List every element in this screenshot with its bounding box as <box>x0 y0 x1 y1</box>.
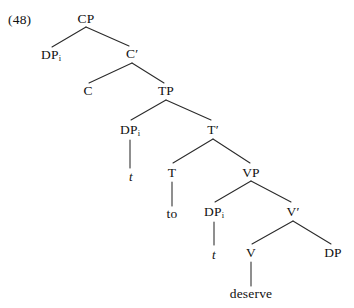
syntax-tree-figure: (48) CP DPi C′ C TP DPi T′ t T VP to DPi… <box>0 0 354 308</box>
node-dp-object: DP <box>324 246 342 260</box>
example-number: (48) <box>8 13 31 27</box>
node-dp-spec-cp-index: i <box>59 53 61 63</box>
branch-tp-to-tbar <box>166 100 211 120</box>
node-c-bar-label: C <box>126 46 135 61</box>
branch-tbar-to-t <box>173 139 213 163</box>
node-t-head: T <box>168 166 176 180</box>
node-dp-spec-vp-index: i <box>222 210 224 220</box>
branch-cbar-to-c <box>89 63 132 83</box>
node-c-head: C <box>83 84 92 98</box>
branch-cp-to-cbar <box>86 27 129 46</box>
branch-cbar-to-tp <box>132 63 164 83</box>
node-tp: TP <box>158 84 174 98</box>
node-trace-spec-tp: t <box>129 170 133 183</box>
branch-vp-to-dp <box>215 181 251 202</box>
node-t-bar: T′ <box>207 123 218 137</box>
branch-cp-to-dp <box>52 27 86 47</box>
node-dp-spec-vp: DPi <box>204 205 224 220</box>
branch-tp-to-dp <box>131 100 166 120</box>
terminal-to: to <box>167 207 178 221</box>
node-dp-spec-tp: DPi <box>120 123 140 138</box>
node-dp-spec-vp-label: DP <box>204 204 222 219</box>
node-dp-spec-cp-label: DP <box>41 47 59 62</box>
branch-tbar-to-vp <box>213 139 250 163</box>
node-v-head: V <box>246 246 256 260</box>
node-v-bar: V′ <box>287 205 300 219</box>
node-v-bar-label: V <box>287 204 297 219</box>
node-c-bar: C′ <box>126 47 138 61</box>
node-t-bar-prime: ′ <box>216 122 219 137</box>
node-dp-spec-tp-label: DP <box>120 122 138 137</box>
node-dp-spec-cp: DPi <box>41 48 61 63</box>
branch-vbar-to-v <box>252 221 293 244</box>
node-dp-spec-tp-index: i <box>138 128 140 138</box>
node-v-bar-prime: ′ <box>297 204 300 219</box>
node-cp: CP <box>78 12 95 26</box>
branch-vp-to-vbar <box>251 181 291 202</box>
node-trace-spec-vp: t <box>212 248 216 261</box>
branch-vbar-to-dp <box>293 221 331 244</box>
node-vp: VP <box>242 166 260 180</box>
terminal-deserve: deserve <box>230 287 273 301</box>
node-c-bar-prime: ′ <box>135 46 138 61</box>
